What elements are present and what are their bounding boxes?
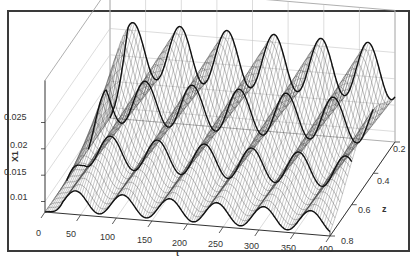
x1-axis: 0.01 0.015 0.02 0.025 X1 <box>4 112 28 202</box>
z-tick-1: 0.4 <box>377 176 390 186</box>
surface-plot: 0.01 0.015 0.02 0.025 X1 0 50 100 150 20… <box>0 0 415 265</box>
t-axis-title: t <box>176 248 179 258</box>
t-tick-6: 300 <box>244 241 259 251</box>
t-tick-0: 0 <box>36 228 41 238</box>
t-tick-8: 400 <box>318 244 333 254</box>
z-tick-3: 0.8 <box>341 236 354 246</box>
t-tick-5: 250 <box>208 239 223 249</box>
t-tick-7: 350 <box>281 243 296 253</box>
x1-tick-1: 0.015 <box>4 167 27 177</box>
chart-container: 0.01 0.015 0.02 0.025 X1 0 50 100 150 20… <box>0 0 415 265</box>
t-tick-3: 150 <box>137 235 152 245</box>
t-tick-1: 50 <box>66 229 76 239</box>
t-tick-2: 100 <box>100 232 115 242</box>
x1-tick-3: 0.025 <box>4 112 27 122</box>
x1-axis-title: X1 <box>10 151 20 162</box>
z-axis-title: z <box>382 204 387 214</box>
t-tick-4: 200 <box>172 238 187 248</box>
x1-tick-2: 0.02 <box>10 140 28 150</box>
z-tick-0: 0.2 <box>393 144 406 154</box>
z-tick-2: 0.6 <box>358 205 371 215</box>
x1-tick-0: 0.01 <box>10 192 28 202</box>
